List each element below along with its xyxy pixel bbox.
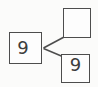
whole-box: 9 (9, 32, 42, 64)
connector-line-top (44, 37, 66, 49)
part-box-bottom: 9 (61, 54, 90, 83)
whole-value: 9 (17, 37, 28, 58)
number-bond-diagram: 9 9 (0, 0, 98, 87)
part-box-top (63, 8, 91, 38)
part-bottom-value: 9 (70, 56, 81, 73)
connector-line-bottom (44, 49, 63, 57)
